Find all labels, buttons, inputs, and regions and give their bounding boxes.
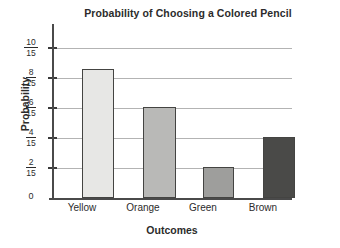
y-tick-label-4-15: 4 15 [14, 127, 48, 148]
y-tick-numerator: 10 [24, 37, 37, 48]
x-axis-title: Outcomes [52, 224, 292, 236]
gridline-10-15 [52, 48, 292, 49]
x-tick-label-brown: Brown [231, 202, 295, 213]
x-axis-line [49, 198, 292, 200]
y-tick-numerator: 8 [26, 67, 35, 78]
x-tick-label-yellow: Yellow [50, 202, 114, 213]
y-tick-denominator: 15 [26, 138, 35, 148]
y-tick-numerator: 4 [26, 127, 35, 138]
bar-yellow [82, 69, 114, 198]
y-tick-numerator: 6 [26, 97, 35, 108]
bar-brown [263, 137, 295, 198]
x-tick-label-orange: Orange [111, 202, 175, 213]
bar-green [203, 167, 234, 198]
y-tick-label-0: 0 [14, 191, 48, 201]
y-tick-numerator: 2 [26, 157, 35, 168]
bar-orange [143, 107, 176, 198]
y-axis-line [52, 24, 54, 199]
y-tick-label-2-15: 2 15 [14, 157, 48, 178]
y-tick-label-8-15: 8 15 [14, 67, 48, 88]
y-tick-denominator: 15 [26, 108, 35, 118]
bar-chart-figure: Probability of Choosing a Colored Pencil… [0, 0, 340, 248]
chart-title: Probability of Choosing a Colored Pencil [40, 7, 336, 19]
y-tick-label-6-15: 6 15 [14, 97, 48, 118]
y-tick-denominator: 15 [26, 168, 35, 178]
x-tick-label-green: Green [171, 202, 235, 213]
plot-area [52, 24, 292, 199]
y-tick-denominator: 15 [24, 48, 37, 58]
y-tick-label-10-15: 10 15 [14, 37, 48, 58]
y-tick-denominator: 15 [26, 78, 35, 88]
